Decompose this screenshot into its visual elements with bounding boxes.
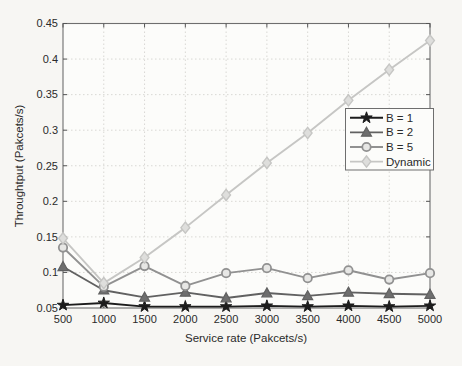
svg-text:2500: 2500 [214, 313, 238, 325]
svg-text:2000: 2000 [173, 313, 197, 325]
svg-text:4500: 4500 [377, 313, 401, 325]
svg-text:0.4: 0.4 [43, 53, 58, 65]
svg-text:0.15: 0.15 [37, 231, 58, 243]
svg-text:0.2: 0.2 [43, 195, 58, 207]
legend-label: B = 2 [386, 126, 413, 138]
svg-text:0.05: 0.05 [37, 302, 58, 314]
svg-text:1000: 1000 [92, 313, 116, 325]
svg-text:3500: 3500 [295, 313, 319, 325]
svg-text:4000: 4000 [336, 313, 360, 325]
y-axis-label: Throughtput (Pakcets/s) [13, 105, 25, 228]
legend-label: B = 5 [386, 141, 413, 153]
svg-text:500: 500 [54, 313, 72, 325]
svg-text:1500: 1500 [132, 313, 156, 325]
x-tick-labels: 500100015002000250030003500400045005000 [54, 313, 442, 325]
svg-text:0.35: 0.35 [37, 88, 58, 100]
svg-text:0.45: 0.45 [37, 17, 58, 29]
svg-text:5000: 5000 [418, 313, 442, 325]
svg-text:0.3: 0.3 [43, 124, 58, 136]
figure-page: 5001000150020002500300035004000450050000… [0, 0, 462, 366]
y-tick-labels: 0.050.10.150.20.250.30.350.40.45 [37, 17, 58, 314]
x-axis-label: Service rate (Pakcets/s) [185, 332, 307, 344]
svg-text:0.1: 0.1 [43, 266, 58, 278]
svg-text:0.25: 0.25 [37, 160, 58, 172]
svg-text:3000: 3000 [255, 313, 279, 325]
throughput-line-chart: 5001000150020002500300035004000450050000… [0, 0, 462, 366]
legend: B = 1B = 2B = 5Dynamic [346, 109, 434, 171]
legend-label: Dynamic [386, 156, 431, 168]
legend-label: B = 1 [386, 112, 413, 124]
